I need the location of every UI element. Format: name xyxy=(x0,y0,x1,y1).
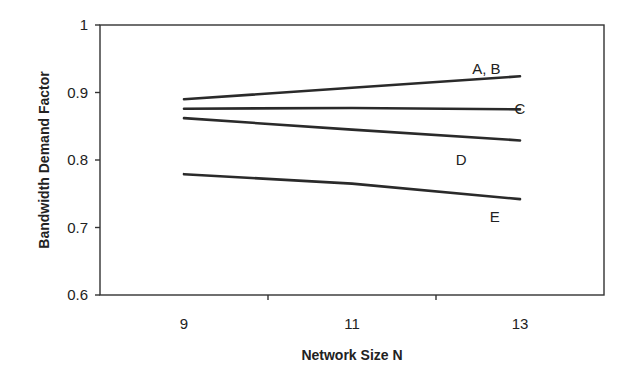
series-line-c xyxy=(184,108,520,109)
y-tick-label: 0.6 xyxy=(67,286,88,303)
series-label: D xyxy=(456,151,467,168)
series-labels: A, BCDE xyxy=(456,60,526,226)
series-label: C xyxy=(515,100,526,117)
series-line-ab xyxy=(184,76,520,99)
series-line-d xyxy=(184,118,520,140)
y-axis-ticks: 0.60.70.80.91 xyxy=(67,16,100,303)
x-axis-ticks: 91113 xyxy=(180,295,529,332)
y-tick-label: 1 xyxy=(80,16,88,33)
series-label: E xyxy=(490,208,500,225)
line-chart: 0.60.70.80.91 91113 A, BCDE Network Size… xyxy=(0,0,636,380)
y-tick-label: 0.9 xyxy=(67,84,88,101)
series-line-e xyxy=(184,174,520,199)
x-axis-title: Network Size N xyxy=(301,347,402,363)
y-tick-label: 0.8 xyxy=(67,151,88,168)
x-tick-label: 9 xyxy=(180,315,188,332)
series-label: A, B xyxy=(472,60,500,77)
x-tick-label: 11 xyxy=(344,315,360,332)
plot-border xyxy=(100,25,604,295)
series-lines xyxy=(184,76,520,199)
x-tick-label: 13 xyxy=(512,315,529,332)
y-tick-label: 0.7 xyxy=(67,219,88,236)
y-axis-title: Bandwidth Demand Factor xyxy=(36,71,52,249)
plot-area xyxy=(100,25,604,295)
